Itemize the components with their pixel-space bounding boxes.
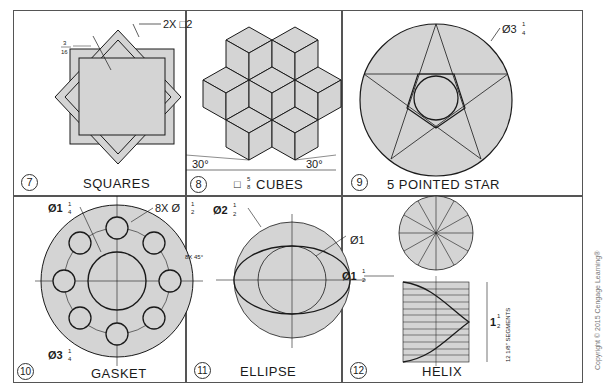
thickness-denominator: 16 xyxy=(61,49,68,55)
panel-number-7: 7 xyxy=(21,174,38,191)
gasket-outer-num: 1 xyxy=(68,348,72,354)
panel-title-squares: SQUARES xyxy=(83,176,150,191)
helix-height: 1 xyxy=(490,316,496,328)
panel-title-helix: HELIX xyxy=(422,364,462,379)
panel-number-10: 10 xyxy=(17,363,34,380)
gasket-outer-den: 4 xyxy=(68,356,72,362)
ellipse-outer-den: 2 xyxy=(233,211,237,217)
copyright-notice: Copyright © 2015 Cengage Learning® xyxy=(594,251,601,370)
gasket-drawing: Ø1 1 4 8X Ø 1 2 8X 45° Ø3 1 4 xyxy=(13,196,185,383)
star-drawing: Ø3 1 4 xyxy=(342,10,583,195)
panel-number-9: 9 xyxy=(351,174,368,191)
panel-number-8: 8 xyxy=(190,176,207,193)
thickness-numerator: 3 xyxy=(63,40,67,46)
helix-diameter-den: 2 xyxy=(362,277,366,283)
cubes-size-numerator: 5 xyxy=(247,176,251,182)
helix-diameter: Ø1 xyxy=(342,270,357,282)
ellipse-outer-num: 1 xyxy=(233,202,237,208)
gasket-inner-diameter: Ø1 xyxy=(48,202,63,214)
star-diameter-denominator: 4 xyxy=(522,30,526,36)
gasket-holes-dimension: 8X Ø xyxy=(155,202,181,214)
panel-squares: 2X □2 3 16 7 SQUARES xyxy=(13,10,185,195)
panel-helix: 1 1 2 12 1/8" SEGMENTS Ø1 1 2 12 HELIX xyxy=(342,196,583,383)
panel-title-star: 5 POINTED STAR xyxy=(387,177,500,192)
ellipse-outer-diameter: Ø2 xyxy=(213,204,228,216)
helix-height-num: 1 xyxy=(497,313,501,319)
ellipse-drawing: Ø2 1 2 Ø1 xyxy=(186,196,341,383)
panel-number-11: 11 xyxy=(194,362,211,379)
helix-drawing: 1 1 2 12 1/8" SEGMENTS Ø1 1 2 xyxy=(342,196,583,383)
panel-cubes: 30° 30° □ 5 8 8 CUBES xyxy=(186,10,341,195)
gasket-inner-num: 1 xyxy=(68,201,72,207)
cubes-angle-right: 30° xyxy=(306,158,323,170)
panel-gasket: Ø1 1 4 8X Ø 1 2 8X 45° Ø3 1 4 10 GASKET xyxy=(13,196,185,383)
gasket-inner-den: 4 xyxy=(68,209,72,215)
cubes-angle-left: 30° xyxy=(192,158,209,170)
helix-segments: 12 1/8" SEGMENTS xyxy=(505,308,511,362)
cubes-square-symbol: □ xyxy=(234,178,241,190)
panel-ellipse: Ø2 1 2 Ø1 11 ELLIPSE xyxy=(186,196,341,383)
squares-drawing: 2X □2 3 16 xyxy=(13,10,185,195)
panel-star: Ø3 1 4 9 5 POINTED STAR xyxy=(342,10,583,195)
panel-title-cubes: CUBES xyxy=(256,177,303,192)
panel-number-12: 12 xyxy=(350,362,367,379)
cubes-drawing: 30° 30° □ 5 8 xyxy=(186,10,341,195)
helix-height-den: 2 xyxy=(497,323,501,329)
gasket-outer-diameter: Ø3 xyxy=(48,349,63,361)
cubes-size-denominator: 8 xyxy=(247,184,251,190)
panel-title-ellipse: ELLIPSE xyxy=(240,364,296,379)
panel-title-gasket: GASKET xyxy=(91,366,147,381)
star-diameter-numerator: 1 xyxy=(522,21,526,27)
helix-diameter-num: 1 xyxy=(362,268,366,274)
star-diameter: Ø3 xyxy=(502,23,517,35)
